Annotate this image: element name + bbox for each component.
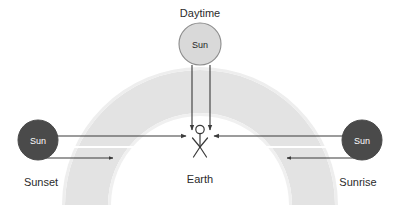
sun-sunset-label: Sun bbox=[30, 136, 46, 146]
sun-sunset[interactable]: Sun bbox=[18, 120, 58, 160]
sun-daytime[interactable]: Sun bbox=[179, 23, 221, 65]
observer-leg-left bbox=[194, 147, 201, 157]
label-sunset: Sunset bbox=[24, 176, 58, 188]
observer-leg-right bbox=[200, 147, 207, 157]
sun-sunrise-label: Sun bbox=[354, 136, 370, 146]
label-sunrise: Sunrise bbox=[339, 176, 376, 188]
label-earth: Earth bbox=[187, 173, 213, 185]
day-night-diagram: Sun Sun Sun Daytime Sunset Sunrise Earth bbox=[0, 0, 398, 205]
stick-figure-observer bbox=[193, 125, 208, 157]
observer-arm-right bbox=[200, 138, 208, 147]
label-daytime: Daytime bbox=[180, 7, 220, 19]
diagram-canvas: Sun Sun Sun Daytime Sunset Sunrise Earth bbox=[0, 0, 398, 205]
observer-arm-left bbox=[193, 138, 201, 147]
observer-head-icon bbox=[196, 125, 204, 133]
sun-daytime-label: Sun bbox=[192, 40, 208, 50]
sun-sunrise[interactable]: Sun bbox=[342, 120, 382, 160]
